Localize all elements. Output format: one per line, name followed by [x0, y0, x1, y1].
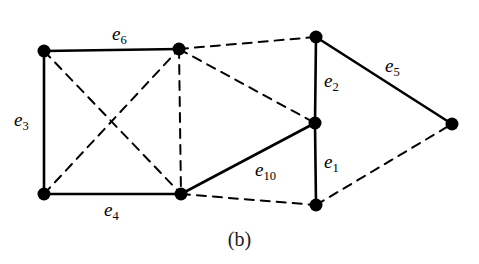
graph-node-bottom-right — [310, 199, 323, 212]
graph-node-bottom-left — [38, 188, 51, 201]
graph-node-bottom-middle — [175, 188, 188, 201]
graph-edge-d3 — [179, 49, 181, 194]
graph-edge-d6 — [181, 194, 316, 205]
graph-canvas — [0, 0, 479, 264]
graph-node-top-middle — [173, 43, 186, 56]
edge-label-subscript: 5 — [393, 65, 399, 79]
edge-label-subscript: 6 — [120, 33, 126, 47]
edge-label-subscript: 10 — [263, 169, 276, 183]
figure-caption: (b) — [0, 228, 479, 251]
edge-label-e1: e1 — [324, 152, 339, 174]
edge-label-e4: e4 — [104, 200, 119, 222]
graph-edge-e1 — [315, 123, 316, 205]
edge-label-subscript: 2 — [332, 80, 338, 94]
edge-label-e10: e10 — [255, 160, 276, 182]
graph-edge-e6 — [44, 49, 179, 51]
edge-label-e3: e3 — [14, 110, 29, 132]
edge-label-e6: e6 — [112, 24, 127, 46]
edge-label-e2: e2 — [324, 71, 339, 93]
graph-edge-d4 — [179, 37, 316, 49]
edge-label-e5: e5 — [385, 56, 400, 78]
graph-node-top-right — [310, 31, 323, 44]
graph-edge-e10 — [181, 123, 315, 194]
graph-node-top-left — [38, 45, 51, 58]
graph-edge-e2 — [315, 37, 316, 123]
graph-figure: e6e3e4e10e2e1e5 (b) — [0, 0, 479, 264]
edge-label-subscript: 4 — [112, 209, 118, 223]
graph-edge-d1 — [44, 51, 181, 194]
edge-label-subscript: 1 — [332, 161, 338, 175]
graph-edge-d5 — [179, 49, 315, 123]
edge-label-subscript: 3 — [22, 119, 28, 133]
graph-edge-d2 — [44, 49, 179, 194]
graph-node-middle-right — [309, 117, 322, 130]
graph-node-far-right — [446, 118, 459, 131]
